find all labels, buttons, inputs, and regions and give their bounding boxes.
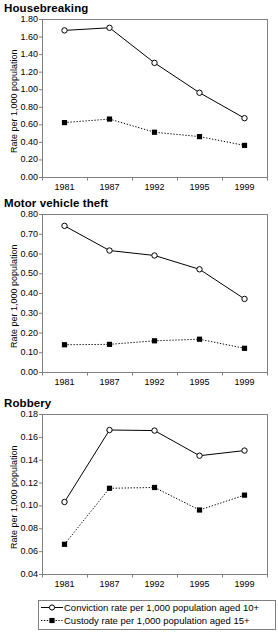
data-point-filled-square — [152, 338, 157, 343]
data-point-open-circle — [62, 499, 67, 504]
data-point-open-circle — [197, 453, 202, 458]
figure-page: Housebreaking Rate per 1,000 population0… — [0, 0, 278, 634]
plot-frame — [43, 415, 268, 575]
data-point-open-circle — [107, 248, 112, 253]
data-point-filled-square — [242, 143, 247, 148]
data-point-filled-square — [62, 120, 67, 125]
x-axis-tick-label: 1995 — [177, 182, 222, 192]
plot-area-motor-vehicle-theft: Rate per 1,000 population0.000.100.200.3… — [0, 214, 278, 394]
plot-frame — [43, 215, 268, 373]
data-point-filled-square — [197, 337, 202, 342]
x-axis-tick-label: 1981 — [42, 377, 87, 387]
x-axis-tick-label: 1995 — [177, 377, 222, 387]
data-point-open-circle — [62, 223, 67, 228]
legend: Conviction rate per 1,000 population age… — [38, 600, 276, 630]
data-point-open-circle — [242, 115, 247, 120]
x-axis-tick-label: 1987 — [87, 377, 132, 387]
x-axis-tick-label: 1992 — [132, 182, 177, 192]
legend-item-custody: Custody rate per 1,000 population aged 1… — [39, 614, 275, 627]
data-point-open-circle — [107, 25, 112, 30]
data-point-filled-square — [197, 507, 202, 512]
data-point-filled-square — [62, 342, 67, 347]
chart-title: Housebreaking — [4, 2, 88, 15]
legend-marker-open-circle-icon — [41, 602, 63, 613]
x-axis-tick-label: 1987 — [87, 182, 132, 192]
data-point-open-circle — [152, 428, 157, 433]
chart-panel-robbery: Robbery Rate per 1,000 population0.040.0… — [0, 397, 278, 592]
legend-item-conviction: Conviction rate per 1,000 population age… — [39, 601, 275, 614]
data-point-open-circle — [197, 267, 202, 272]
x-axis-tick-label: 1981 — [42, 182, 87, 192]
data-point-open-circle — [107, 427, 112, 432]
x-axis-tick-label: 1981 — [42, 579, 87, 589]
plot-frame — [43, 20, 268, 178]
data-point-open-circle — [62, 28, 67, 33]
data-point-filled-square — [242, 493, 247, 498]
data-point-open-circle — [197, 90, 202, 95]
x-axis-tick-label: 1999 — [222, 579, 267, 589]
data-point-filled-square — [152, 130, 157, 135]
data-point-open-circle — [152, 253, 157, 258]
chart-panel-housebreaking: Housebreaking Rate per 1,000 population0… — [0, 2, 278, 195]
chart-svg — [0, 414, 278, 576]
plot-area-robbery: Rate per 1,000 population0.040.060.080.1… — [0, 414, 278, 596]
data-point-filled-square — [107, 116, 112, 121]
data-point-filled-square — [197, 134, 202, 139]
chart-svg — [0, 19, 278, 179]
x-axis-tick-label: 1999 — [222, 182, 267, 192]
data-point-open-circle — [152, 60, 157, 65]
chart-panel-motor-vehicle-theft: Motor vehicle theft Rate per 1,000 popul… — [0, 197, 278, 390]
data-point-filled-square — [107, 342, 112, 347]
data-point-filled-square — [152, 485, 157, 490]
x-axis-tick-label: 1992 — [132, 377, 177, 387]
x-axis-tick-label: 1987 — [87, 579, 132, 589]
legend-marker-filled-square-icon — [41, 615, 63, 626]
legend-label: Custody rate per 1,000 population aged 1… — [64, 616, 250, 626]
x-axis-tick-label: 1992 — [132, 579, 177, 589]
data-point-filled-square — [107, 486, 112, 491]
data-point-open-circle — [242, 448, 247, 453]
legend-label: Conviction rate per 1,000 population age… — [64, 603, 259, 613]
data-point-filled-square — [242, 346, 247, 351]
data-point-filled-square — [62, 542, 67, 547]
data-point-open-circle — [242, 296, 247, 301]
chart-svg — [0, 214, 278, 374]
x-axis-tick-label: 1999 — [222, 377, 267, 387]
x-axis-tick-label: 1995 — [177, 579, 222, 589]
plot-area-housebreaking: Rate per 1,000 population0.000.200.400.6… — [0, 19, 278, 199]
